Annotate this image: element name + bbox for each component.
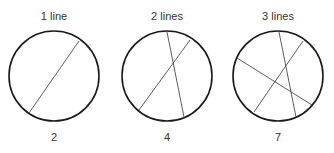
panel-3-title: 3 lines (262, 10, 294, 22)
circle-2 (122, 31, 212, 121)
panel-3-region-count: 7 (275, 131, 281, 143)
circle-3 (233, 31, 323, 121)
panel-1: 1 line 2 (9, 10, 99, 143)
circle-1 (9, 31, 99, 121)
panel-3-line-3 (237, 58, 312, 105)
panel-1-title: 1 line (41, 10, 67, 22)
panel-3-line-1 (254, 41, 303, 112)
panel-3: 3 lines 7 (233, 10, 323, 143)
circle-division-diagram: 1 line 2 2 lines 4 3 lines 7 (0, 0, 334, 153)
panel-2-line-2 (167, 32, 184, 117)
panel-2-region-count: 4 (164, 131, 170, 143)
panel-1-line-1 (29, 41, 79, 113)
panel-3-line-2 (279, 32, 296, 117)
panel-2-line-1 (139, 40, 190, 110)
panel-2-title: 2 lines (151, 10, 183, 22)
panel-1-region-count: 2 (51, 131, 57, 143)
panel-2: 2 lines 4 (122, 10, 212, 143)
